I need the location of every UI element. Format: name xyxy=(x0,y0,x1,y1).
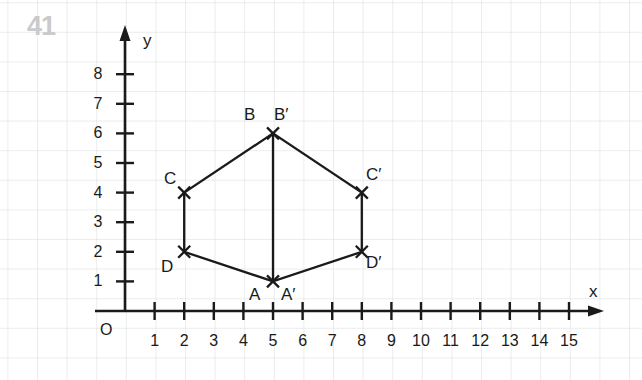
x-tick-label-9: 9 xyxy=(379,333,403,349)
vertex-label-C-prime: C′ xyxy=(366,166,381,183)
y-axis xyxy=(116,25,134,311)
x-tick-label-4: 4 xyxy=(231,333,255,349)
vertex-label-C: C xyxy=(164,170,176,187)
worksheet-page: 41 y x O 1 2 3 4 5 6 7 8 9 10 11 12 13 1… xyxy=(0,0,642,380)
x-tick-label-2: 2 xyxy=(172,333,196,349)
y-tick-label-8: 8 xyxy=(86,66,110,82)
vertex-label-B-prime: B′ xyxy=(274,106,289,123)
y-axis-label: y xyxy=(143,32,152,49)
x-tick-label-7: 7 xyxy=(320,333,344,349)
y-tick-label-6: 6 xyxy=(86,125,110,141)
exercise-number: 41 xyxy=(27,13,55,40)
x-tick-label-13: 13 xyxy=(498,333,522,349)
vertex-label-D-prime: D′ xyxy=(366,254,381,271)
x-tick-label-1: 1 xyxy=(143,333,167,349)
x-tick-label-6: 6 xyxy=(291,333,315,349)
x-tick-label-5: 5 xyxy=(261,333,285,349)
x-axis xyxy=(95,302,604,320)
y-tick-label-2: 2 xyxy=(86,244,110,260)
x-tick-label-8: 8 xyxy=(350,333,374,349)
vertex-label-B: B xyxy=(244,106,255,123)
vertex-label-A-prime: A′ xyxy=(281,286,296,303)
y-tick-label-7: 7 xyxy=(86,96,110,112)
x-tick-label-14: 14 xyxy=(527,333,551,349)
x-tick-label-11: 11 xyxy=(439,333,463,349)
x-tick-label-3: 3 xyxy=(202,333,226,349)
y-tick-label-5: 5 xyxy=(86,155,110,171)
y-tick-label-1: 1 xyxy=(86,273,110,289)
y-tick-label-4: 4 xyxy=(86,185,110,201)
x-axis-label: x xyxy=(589,283,598,300)
y-tick-label-3: 3 xyxy=(86,214,110,230)
hexagon-shape xyxy=(184,133,362,281)
vertex-label-D: D xyxy=(161,258,173,275)
x-tick-label-10: 10 xyxy=(409,333,433,349)
x-tick-label-12: 12 xyxy=(468,333,492,349)
x-tick-label-15: 15 xyxy=(557,333,581,349)
origin-label: O xyxy=(100,322,112,338)
vertex-label-A: A xyxy=(249,286,260,303)
